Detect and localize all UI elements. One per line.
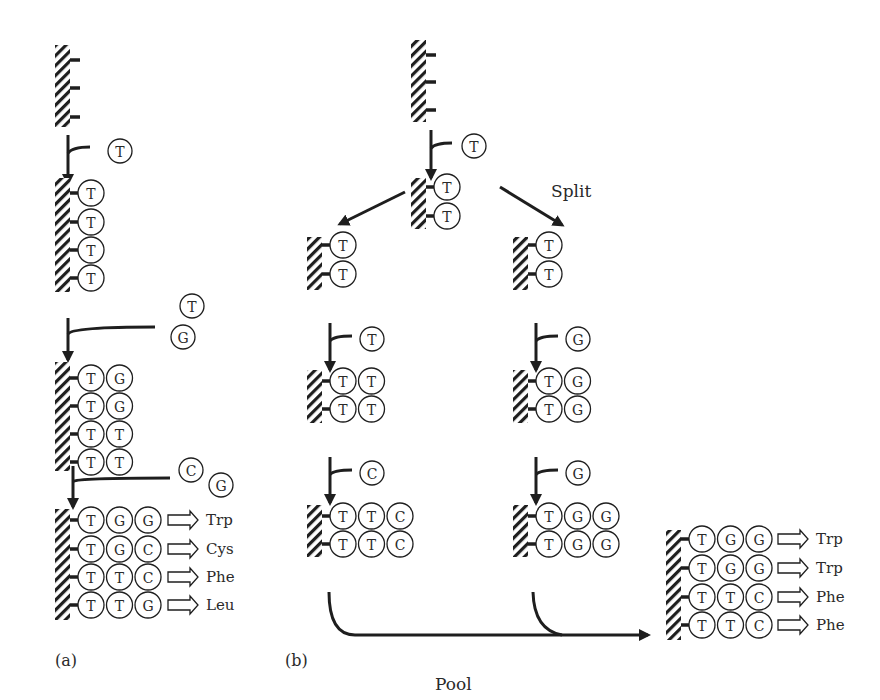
pool-arrow <box>329 592 648 635</box>
monomer-label: C <box>367 466 378 482</box>
peptide-chain-row: TG <box>528 368 591 394</box>
product-arrow: Trp <box>778 559 843 577</box>
monomer-label: T <box>338 537 348 553</box>
monomer-label: G <box>114 371 125 387</box>
reagent-monomer: G <box>171 325 195 349</box>
monomer-label: T <box>115 598 125 614</box>
monomer-label: G <box>753 561 764 577</box>
peptide-chain-row: TT <box>322 396 385 422</box>
coupling-arrow-left-3 <box>330 457 352 503</box>
monomer-label: G <box>725 561 736 577</box>
monomer-label: T <box>86 598 96 614</box>
product-arrow: Phe <box>778 616 845 634</box>
resin-support-left-step3 <box>307 505 322 557</box>
amino-acid-label: Cys <box>206 540 234 558</box>
monomer-label: G <box>142 598 153 614</box>
monomer-label: T <box>86 455 96 471</box>
monomer-label: G <box>114 399 125 415</box>
reagent-branch <box>536 470 558 474</box>
split-pool-synthesis-diagram: TTTTTTGTGTGTTTTCGTGGTrpTGCCysTTCPheTTGLe… <box>0 0 880 700</box>
peptide-chain-row: TT <box>70 421 133 447</box>
peptide-chain-row: T <box>322 232 356 258</box>
resin-support-top <box>411 178 426 229</box>
resin-support-step1 <box>55 178 70 292</box>
hollow-arrow-icon <box>168 540 198 558</box>
monomer-label: T <box>442 209 452 225</box>
monomer-label: T <box>544 374 554 390</box>
monomer-label: T <box>338 374 348 390</box>
resin-support-right-split <box>513 237 528 290</box>
peptide-chain-row: TGG <box>528 503 619 529</box>
monomer-label: T <box>697 561 707 577</box>
peptide-chain-row: TG <box>528 396 591 422</box>
amino-acid-label: Trp <box>816 559 843 577</box>
reagent-branch <box>68 147 90 153</box>
peptide-chain-row: TGG <box>681 526 772 552</box>
coupling-arrow-right-2 <box>536 323 558 370</box>
monomer-label: C <box>395 537 406 553</box>
peptide-chain-row: TGG <box>528 531 619 557</box>
monomer-label: T <box>86 215 96 231</box>
split-arrow-left <box>340 192 405 224</box>
peptide-chain-row: T <box>70 209 104 235</box>
monomer-label: T <box>544 267 554 283</box>
monomer-label: G <box>114 542 125 558</box>
monomer-label: T <box>338 267 348 283</box>
peptide-chain-row: T <box>70 180 104 206</box>
reagent-branch <box>431 143 452 148</box>
monomer-label: G <box>114 513 125 529</box>
reagent-monomer: T <box>462 134 486 158</box>
coupling-arrow-2 <box>68 318 155 360</box>
resin-support-left-step2 <box>307 370 322 423</box>
pool-label: Pool <box>435 674 472 694</box>
peptide-chain-row: TT <box>70 449 133 475</box>
reagent-monomer: G <box>209 473 233 497</box>
peptide-chain-row: T <box>70 265 104 291</box>
peptide-chain-row: T <box>528 232 562 258</box>
peptide-chain-row: TGC <box>70 536 161 562</box>
monomer-label: G <box>572 466 583 482</box>
panel-b-label: (b) <box>285 651 308 670</box>
monomer-label: T <box>86 243 96 259</box>
monomer-label: T <box>86 542 96 558</box>
reagent-monomer: T <box>108 139 132 163</box>
reagent-branch <box>68 327 155 334</box>
monomer-label: T <box>187 299 197 315</box>
monomer-label: T <box>697 532 707 548</box>
monomer-label: T <box>86 570 96 586</box>
monomer-label: T <box>544 402 554 418</box>
amino-acid-label: Phe <box>206 568 235 586</box>
amino-acid-label: Trp <box>206 511 233 529</box>
resin-support-right-step2 <box>513 370 528 423</box>
monomer-label: T <box>726 590 736 606</box>
hollow-arrow-icon <box>168 568 198 586</box>
peptide-chain-row: T <box>426 203 460 229</box>
amino-acid-label: Trp <box>816 530 843 548</box>
coupling-arrow-right-3 <box>536 457 558 503</box>
monomer-label: T <box>367 509 377 525</box>
monomer-label: G <box>177 330 188 346</box>
monomer-label: C <box>395 509 406 525</box>
peptide-chain-row: TTC <box>70 564 161 590</box>
monomer-label: T <box>338 238 348 254</box>
monomer-label: T <box>115 455 125 471</box>
peptide-chain-row: TTC <box>322 531 413 557</box>
product-arrow: Trp <box>778 530 843 548</box>
resin-support-initial <box>55 45 70 127</box>
reagent-monomer: G <box>566 461 590 485</box>
hollow-arrow-icon <box>168 511 198 529</box>
monomer-label: T <box>115 427 125 443</box>
monomer-label: G <box>572 402 583 418</box>
reagent-branch <box>73 478 170 482</box>
amino-acid-label: Phe <box>816 588 845 606</box>
monomer-label: T <box>367 332 377 348</box>
monomer-label: T <box>367 537 377 553</box>
reagent-branch <box>536 336 558 341</box>
resin-support-step2 <box>55 362 70 471</box>
monomer-label: T <box>469 139 479 155</box>
product-arrow: Trp <box>168 511 233 529</box>
peptide-chain-row: TTG <box>70 592 161 618</box>
peptide-chain-row: T <box>322 261 356 287</box>
monomer-label: T <box>367 374 377 390</box>
monomer-label: G <box>600 537 611 553</box>
